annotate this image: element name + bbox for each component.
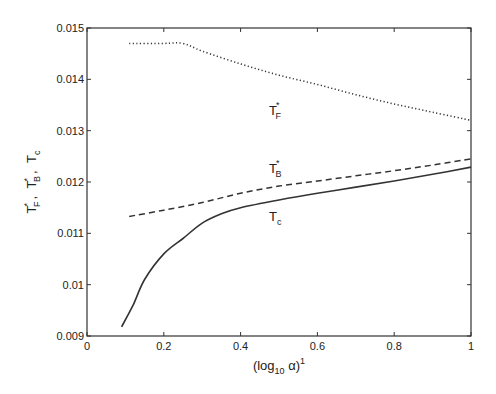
series-annotations: T*FT*BTc — [269, 100, 282, 226]
svg-text:T*F, T*B, Tc: T*F, T*B, Tc — [22, 150, 42, 213]
annotation-tf: T*F — [269, 100, 281, 121]
y-tick-label: 0.011 — [57, 227, 84, 239]
y-tick-label: 0.014 — [56, 73, 84, 85]
x-tick-label: 0 — [84, 340, 90, 352]
axes-frame — [87, 28, 471, 336]
x-tick-label: 0.6 — [310, 340, 325, 352]
y-tick-label: 0.01 — [63, 279, 84, 291]
y-tick-label: 0.015 — [56, 22, 84, 34]
y-tick-label: 0.013 — [56, 125, 84, 137]
line-chart: 00.20.40.60.81 0.0090.010.0110.0120.0130… — [0, 0, 496, 394]
y-axis-ticks: 0.0090.010.0110.0120.0130.0140.015 — [56, 22, 471, 342]
y-axis-label: T*F, T*B, Tc — [22, 150, 42, 213]
x-tick-label: 1 — [468, 340, 474, 352]
series-tf-line — [129, 43, 471, 121]
x-tick-label: 0.8 — [387, 340, 402, 352]
x-axis-ticks: 00.20.40.60.81 — [84, 28, 474, 352]
x-tick-label: 0.4 — [233, 340, 248, 352]
series-tb-line — [129, 159, 471, 217]
x-tick-label: 0.2 — [156, 340, 171, 352]
plot-lines — [122, 43, 471, 327]
y-tick-label: 0.012 — [56, 176, 84, 188]
x-axis-label: (log10 α)1 — [253, 356, 305, 376]
annotation-tc: Tc — [269, 209, 282, 227]
y-tick-label: 0.009 — [56, 330, 84, 342]
annotation-tb: T*B — [269, 158, 281, 179]
series-tc-line — [122, 167, 471, 327]
